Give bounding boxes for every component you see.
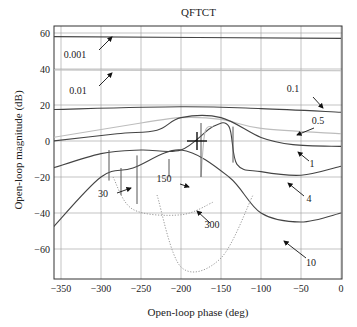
x-tick-label: 0	[339, 283, 344, 294]
x-tick-label: −250	[131, 283, 152, 294]
x-tick-label: −200	[171, 283, 192, 294]
x-tick-label: −300	[91, 283, 112, 294]
curve-annotation-label: 30	[98, 188, 108, 199]
annotation-arrow-icon	[313, 97, 323, 108]
curve-annotation-label: 4	[307, 193, 312, 204]
y-tick-label: 40	[40, 64, 50, 75]
x-tick-label: −100	[251, 283, 272, 294]
annotation-arrow-icon	[284, 241, 306, 258]
y-tick-label: −40	[34, 208, 50, 219]
x-tick-label: −150	[211, 283, 232, 294]
curve-0_001	[53, 37, 341, 39]
curve-annotation-label: 0.001	[64, 49, 87, 60]
curve-annotation-label: 0.1	[287, 83, 300, 94]
y-tick-label: −20	[34, 172, 50, 183]
curve-annotation-label: 300	[205, 219, 220, 230]
annotation-arrow-icon	[288, 183, 304, 196]
curve-0_01	[53, 70, 341, 71]
y-tick-label: 60	[40, 28, 50, 39]
curve-10	[53, 150, 341, 228]
annotation-arrow-icon	[180, 184, 189, 187]
curve-annotation-label: 0.01	[69, 85, 87, 96]
curve-annotation-label: 150	[157, 173, 172, 184]
nichols-chart: −350−300−250−200−150−100−5006040200−20−4…	[0, 0, 357, 327]
curve-annotation-label: 10	[306, 257, 316, 268]
x-tick-label: −350	[51, 283, 72, 294]
y-tick-label: −60	[34, 244, 50, 255]
y-tick-label: 0	[45, 136, 50, 147]
y-tick-label: 20	[40, 100, 50, 111]
curve-annotation-label: 1	[310, 158, 315, 169]
curve-0_1	[53, 107, 341, 112]
x-tick-label: −50	[293, 283, 309, 294]
annotation-arrow-icon	[298, 152, 309, 161]
curve-annotation-label: 0.5	[312, 115, 325, 126]
